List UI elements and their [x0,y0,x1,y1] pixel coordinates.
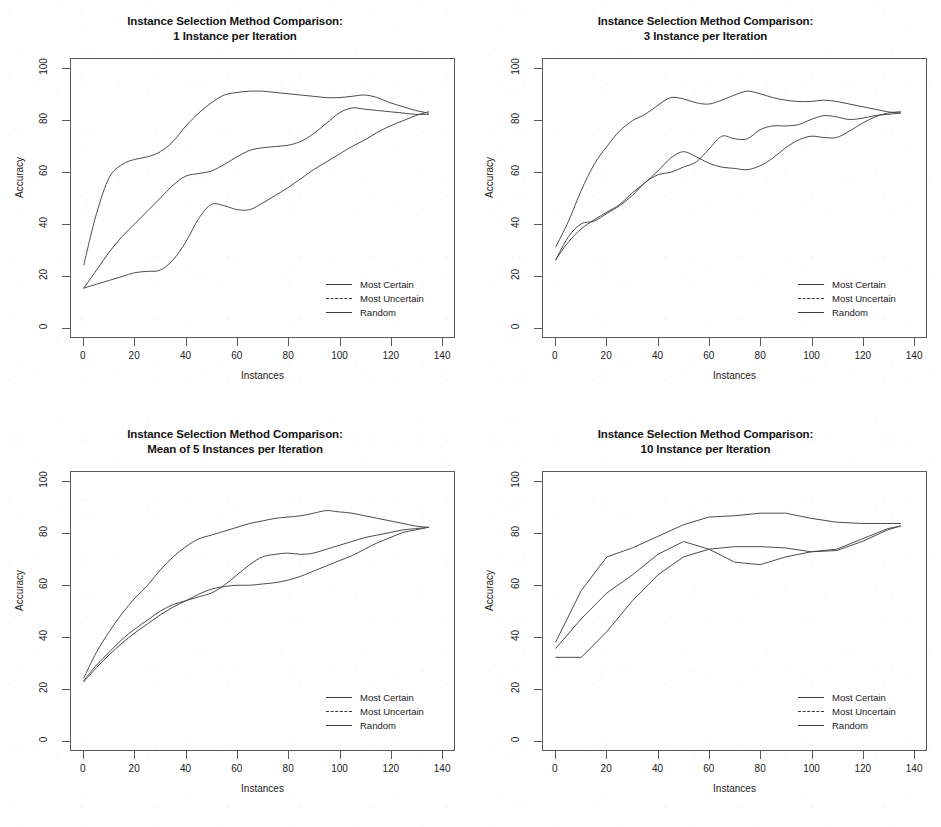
legend-line-icon [326,720,352,730]
panel-title-line1: Instance Selection Method Comparison: [598,428,813,440]
x-tick-mark [186,751,187,759]
panel-top-left: Instance Selection Method Comparison: 1 … [0,0,470,413]
y-tick-label: 40 [38,207,49,237]
y-tick-label: 80 [38,104,49,134]
series-line [556,112,901,260]
legend-label: Random [832,720,868,731]
y-tick-label: 80 [510,517,521,547]
y-tick-mark [62,637,70,638]
x-tick-label: 40 [638,350,678,361]
x-tick-mark [606,338,607,346]
x-tick-mark [288,338,289,346]
y-tick-label: 80 [510,104,521,134]
legend: Most CertainMost UncertainRandom [326,690,448,732]
y-tick-mark [534,224,542,225]
legend-label: Most Certain [832,692,886,703]
x-tick-mark [134,338,135,346]
y-tick-mark [62,120,70,121]
x-tick-label: 60 [689,763,729,774]
x-tick-label: 0 [63,350,103,361]
x-tick-label: 40 [166,763,206,774]
legend-line-icon [798,706,824,716]
panel-title-line1: Instance Selection Method Comparison: [127,15,342,27]
x-tick-label: 40 [166,350,206,361]
legend-row: Most Uncertain [326,704,448,718]
legend-row: Most Certain [798,690,920,704]
legend-line-icon [798,307,824,317]
panel-title-line2: 1 Instance per Iteration [0,29,470,44]
legend-line-icon [798,692,824,702]
y-tick-label: 100 [510,52,521,82]
legend-label: Random [360,307,396,318]
series-line [84,527,429,680]
y-axis-label: Accuracy [14,570,25,611]
series-line [556,113,901,260]
legend-row: Most Certain [798,277,920,291]
panel-title-bottom-right: Instance Selection Method Comparison: 10… [470,427,941,457]
y-tick-mark [62,276,70,277]
y-tick-label: 20 [510,259,521,289]
y-tick-label: 20 [38,672,49,702]
x-tick-mark [812,751,813,759]
y-tick-mark [534,533,542,534]
panel-top-right: Instance Selection Method Comparison: 3 … [470,0,941,413]
legend-line-icon [798,293,824,303]
legend-line-icon [326,706,352,716]
figure-panel-grid: Instance Selection Method Comparison: 1 … [0,0,941,827]
panel-title-bottom-left: Instance Selection Method Comparison: Me… [0,427,470,457]
legend-row: Most Certain [326,277,448,291]
legend: Most CertainMost UncertainRandom [798,277,920,319]
x-tick-label: 100 [320,763,360,774]
panel-title-top-right: Instance Selection Method Comparison: 3 … [470,14,941,44]
x-tick-label: 40 [638,763,678,774]
y-tick-mark [534,120,542,121]
x-tick-label: 0 [63,763,103,774]
y-tick-mark [534,741,542,742]
x-axis-label: Instances [70,370,455,381]
panel-bottom-right: Instance Selection Method Comparison: 10… [470,413,941,827]
legend-row: Random [798,305,920,319]
x-tick-mark [555,751,556,759]
x-axis-label: Instances [542,783,927,794]
series-line [556,513,901,642]
x-tick-mark [442,338,443,346]
x-tick-label: 80 [740,763,780,774]
y-tick-label: 100 [510,465,521,495]
y-tick-mark [534,68,542,69]
x-tick-mark [340,338,341,346]
y-tick-label: 60 [38,156,49,186]
y-tick-label: 0 [510,724,521,754]
legend-label: Most Uncertain [832,293,896,304]
y-tick-label: 0 [38,724,49,754]
x-tick-label: 20 [114,763,154,774]
x-tick-mark [442,751,443,759]
legend-line-icon [798,279,824,289]
x-tick-label: 140 [894,350,934,361]
legend-row: Random [326,718,448,732]
legend: Most CertainMost UncertainRandom [798,690,920,732]
x-tick-label: 20 [586,763,626,774]
y-tick-mark [62,68,70,69]
y-tick-mark [62,585,70,586]
series-line [84,527,429,681]
y-tick-label: 0 [510,311,521,341]
x-tick-mark [760,338,761,346]
x-tick-mark [391,751,392,759]
x-tick-label: 100 [792,350,832,361]
y-tick-label: 40 [510,620,521,650]
x-tick-label: 100 [792,763,832,774]
y-tick-label: 40 [38,620,49,650]
panel-title-top-left: Instance Selection Method Comparison: 1 … [0,14,470,44]
y-tick-mark [62,172,70,173]
y-tick-mark [534,276,542,277]
x-tick-mark [237,751,238,759]
series-line [84,112,429,288]
legend-line-icon [326,692,352,702]
x-tick-mark [83,751,84,759]
x-tick-mark [914,751,915,759]
x-tick-mark [863,338,864,346]
legend-label: Random [832,307,868,318]
x-tick-mark [709,338,710,346]
x-tick-label: 80 [268,350,308,361]
y-tick-label: 0 [38,311,49,341]
